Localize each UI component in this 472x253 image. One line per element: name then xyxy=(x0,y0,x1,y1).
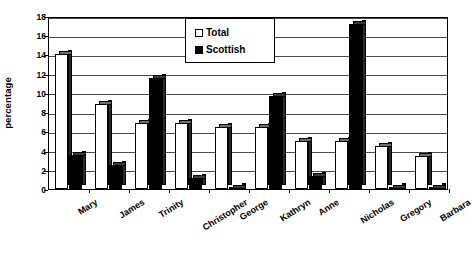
bar-barbara-total xyxy=(415,156,428,189)
bar-face xyxy=(149,78,162,189)
y-tick-label: 2 xyxy=(24,167,46,176)
y-tick-mark xyxy=(44,113,48,114)
y-tick-label: 8 xyxy=(24,109,46,118)
x-axis-label: Barbara xyxy=(438,197,472,224)
bar-group xyxy=(409,18,449,189)
bar-trinity-total xyxy=(135,123,148,189)
bar-face xyxy=(95,104,108,189)
chart-legend: Total Scottish xyxy=(185,18,275,63)
bar-mary-scottish xyxy=(69,155,82,189)
x-tick-mark xyxy=(329,189,330,193)
x-tick-mark xyxy=(409,189,410,193)
bar-top-3d xyxy=(353,21,366,25)
x-axis-label: Kathryn xyxy=(278,197,312,224)
bar-top-3d xyxy=(433,185,446,189)
bar-group xyxy=(49,18,89,189)
bar-face xyxy=(255,127,268,189)
y-tick-mark xyxy=(44,94,48,95)
y-tick-label: 12 xyxy=(24,71,46,80)
legend-swatch-scottish-icon xyxy=(195,46,203,54)
bar-george-scottish xyxy=(229,188,242,190)
bar-group xyxy=(329,18,369,189)
y-tick-mark xyxy=(44,152,48,153)
x-tick-mark xyxy=(369,189,370,193)
legend-item-total: Total xyxy=(195,24,274,41)
y-tick-mark xyxy=(44,55,48,56)
bar-face xyxy=(295,141,308,189)
y-tick-mark xyxy=(44,132,48,133)
bar-christopher-total xyxy=(175,123,188,189)
bar-group xyxy=(289,18,329,189)
bar-james-total xyxy=(95,104,108,189)
bar-top-3d xyxy=(219,124,232,128)
y-axis-title: percentage xyxy=(2,55,16,151)
x-axis-label: Gregory xyxy=(398,197,433,224)
bar-top-3d xyxy=(313,173,326,177)
bar-anne-total xyxy=(295,141,308,189)
bar-face xyxy=(375,146,388,189)
x-tick-mark xyxy=(449,189,450,193)
bar-top-3d xyxy=(379,143,392,147)
bar-side-3d xyxy=(282,92,286,185)
bar-face xyxy=(269,96,282,189)
bar-side-3d xyxy=(82,151,86,185)
bar-face xyxy=(69,155,82,189)
y-tick-label: 18 xyxy=(24,13,46,22)
bar-group xyxy=(89,18,129,189)
bar-side-3d xyxy=(388,142,392,185)
bar-nicholas-total xyxy=(335,141,348,189)
bar-side-3d xyxy=(188,119,192,185)
bar-top-3d xyxy=(299,138,312,142)
bar-gregory-scottish xyxy=(389,188,402,190)
bar-top-3d xyxy=(193,175,206,179)
bar-face xyxy=(335,141,348,189)
legend-item-scottish: Scottish xyxy=(195,41,274,58)
bar-anne-scottish xyxy=(309,176,322,189)
bar-trinity-scottish xyxy=(149,78,162,189)
bar-face xyxy=(215,127,228,189)
bar-top-3d xyxy=(153,75,166,79)
y-tick-mark xyxy=(44,75,48,76)
bar-side-3d xyxy=(162,74,166,185)
legend-swatch-total-icon xyxy=(195,29,203,37)
bar-gregory-total xyxy=(375,146,388,189)
bar-side-3d xyxy=(228,123,232,185)
bar-top-3d xyxy=(419,153,432,157)
x-tick-mark xyxy=(169,189,170,193)
bar-face xyxy=(109,165,122,189)
x-tick-mark xyxy=(129,189,130,193)
bar-top-3d xyxy=(273,93,286,97)
bar-group xyxy=(129,18,169,189)
bar-top-3d xyxy=(393,185,406,189)
y-tick-mark xyxy=(44,36,48,37)
bar-top-3d xyxy=(59,51,72,55)
bar-face xyxy=(175,123,188,189)
y-tick-label: 0 xyxy=(24,186,46,195)
x-axis-label: Nicholas xyxy=(358,197,395,225)
x-axis-label: Anne xyxy=(316,197,340,217)
bar-george-total xyxy=(215,127,228,189)
bar-barbara-scottish xyxy=(429,188,442,190)
bar-kathryn-total xyxy=(255,127,268,189)
x-tick-mark xyxy=(209,189,210,193)
bar-james-scottish xyxy=(109,165,122,189)
bar-mary-total xyxy=(55,54,68,189)
y-tick-label: 14 xyxy=(24,51,46,60)
y-tick-label: 10 xyxy=(24,90,46,99)
y-tick-label: 6 xyxy=(24,128,46,137)
bar-nicholas-scottish xyxy=(349,24,362,189)
bar-side-3d xyxy=(362,20,366,185)
bar-top-3d xyxy=(113,162,126,166)
x-tick-mark xyxy=(89,189,90,193)
bar-face xyxy=(135,123,148,189)
y-tick-mark xyxy=(44,190,48,191)
x-axis-label: Trinity xyxy=(157,197,185,220)
bar-christopher-scottish xyxy=(189,178,202,189)
y-tick-mark xyxy=(44,17,48,18)
bar-face xyxy=(415,156,428,189)
bar-face xyxy=(55,54,68,189)
legend-label-total: Total xyxy=(206,28,229,38)
x-axis-label: James xyxy=(117,197,146,220)
bar-top-3d xyxy=(99,101,112,105)
